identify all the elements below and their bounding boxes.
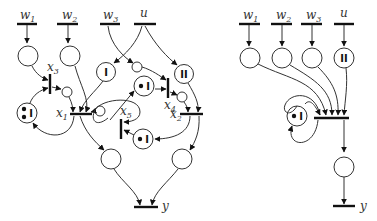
input-label-w3: w3 (103, 8, 118, 24)
transition-label-x1: x1 (56, 106, 68, 122)
right-diagram: w1 w2 w3 u II I y (239, 6, 367, 213)
place-x3-out (62, 87, 72, 97)
petri-net-diagrams: w1 w2 w3 u I II x3 (0, 0, 377, 221)
place-w1 (18, 46, 38, 66)
right-output-label-y: y (359, 199, 367, 213)
right-input-label-w1: w1 (243, 8, 258, 24)
transition-label-x2: x2 (170, 107, 182, 123)
place-dot-I-top (134, 76, 154, 96)
input-label-w2: w2 (62, 8, 77, 24)
svg-text:II: II (180, 69, 187, 80)
svg-text:I: I (104, 67, 108, 78)
place-dots-I (17, 103, 37, 123)
right-place-w3 (302, 48, 322, 68)
left-diagram: w1 w2 w3 u I II x3 (17, 6, 203, 213)
right-place-dot-I (287, 106, 307, 126)
output-label-y: y (161, 199, 169, 213)
svg-text:II: II (340, 53, 347, 64)
right-input-label-w3: w3 (306, 8, 321, 24)
right-place-w2 (272, 48, 292, 68)
input-label-u: u (140, 6, 148, 20)
right-place-w1 (240, 48, 260, 68)
place-out-right (172, 149, 192, 169)
svg-text:I: I (29, 108, 33, 119)
svg-text:I: I (145, 134, 149, 145)
input-label-w1: w1 (20, 8, 35, 24)
place-w3-small (132, 62, 142, 72)
right-place-out (334, 157, 354, 177)
transition-label-x3: x3 (47, 60, 59, 76)
right-input-label-w2: w2 (276, 8, 291, 24)
svg-text:I: I (146, 81, 150, 92)
place-x4-out (177, 92, 187, 102)
right-input-label-u: u (340, 6, 348, 20)
place-w2 (60, 46, 80, 66)
svg-text:I: I (299, 111, 303, 122)
place-out-left (101, 149, 121, 169)
place-dot-I-bottom (133, 129, 153, 149)
